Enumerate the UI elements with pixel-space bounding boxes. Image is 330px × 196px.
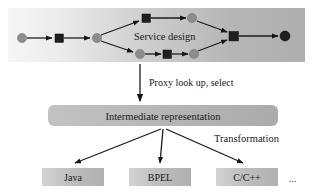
edge-ir-java — [75, 129, 161, 163]
target-ellipsis-label: ... — [289, 173, 297, 184]
node-circle-lower-1 — [135, 49, 144, 58]
edge-ir-bpel — [160, 129, 163, 163]
intermediate-representation-label: Intermediate representation — [105, 111, 221, 122]
node-task-square-1 — [55, 34, 63, 42]
node-split-circle — [92, 33, 101, 42]
node-task-square-lower — [163, 50, 171, 58]
node-start-circle — [17, 33, 26, 42]
node-task-square-upper — [142, 14, 150, 22]
node-circle-upper — [187, 13, 196, 22]
target-label-bpel: BPEL — [148, 172, 172, 183]
node-end-circle — [280, 31, 290, 41]
proxy-lookup-label: Proxy look up, select — [149, 77, 234, 88]
target-label-java: Java — [64, 172, 82, 183]
diagram-root: Service design Proxy look up, select Int… — [0, 0, 330, 196]
node-merge-square — [229, 32, 238, 41]
target-label-cpp: C/C++ — [233, 172, 261, 183]
target-language-boxes: Java BPEL C/C++ ... — [42, 168, 297, 186]
transformation-label: Transformation — [214, 133, 280, 144]
node-circle-lower-2 — [189, 49, 198, 58]
service-design-label: Service design — [134, 31, 196, 42]
diagram-canvas: Service design Proxy look up, select Int… — [0, 0, 330, 196]
